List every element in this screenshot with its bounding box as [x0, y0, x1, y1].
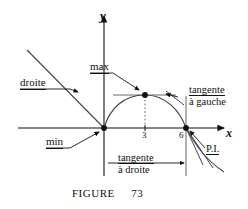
label-tangente-a-droite-line2: à droite: [118, 164, 150, 175]
label-point-inflexion-text: P.I.: [206, 143, 219, 155]
label-min: min: [46, 136, 63, 149]
label-tangente-a-gauche: tangente à gauche: [189, 84, 226, 107]
label-droite-text: droite: [20, 77, 46, 90]
label-tangente-a-droite-line1: tangente: [118, 152, 154, 164]
leader-max: [90, 73, 139, 90]
y-axis-label: y: [100, 9, 106, 23]
label-droite: droite: [20, 77, 46, 90]
label-point-inflexion: P.I.: [206, 143, 219, 155]
label-tangente-a-droite: tangente à droite: [118, 152, 154, 175]
figure-caption-label: FIGURE: [72, 187, 115, 199]
label-tangente-a-gauche-line1: tangente: [189, 84, 225, 96]
figure-container: y x 3 6 droite max min tangente à gauche…: [0, 0, 248, 209]
label-tangente-a-gauche-line2: à gauche: [189, 96, 226, 107]
tick-label-3: 3: [142, 131, 147, 140]
figure-caption-number: 73: [131, 187, 143, 199]
point-min: [101, 125, 107, 131]
leader-tangente-a-gauche: [166, 94, 178, 97]
tick-label-6: 6: [179, 131, 184, 140]
point-max: [142, 92, 148, 98]
x-axis-label: x: [226, 127, 232, 140]
label-max-text: max: [90, 61, 109, 74]
label-max: max: [90, 61, 109, 74]
figure-caption: FIGURE 73: [72, 188, 143, 200]
label-min-text: min: [46, 136, 63, 149]
